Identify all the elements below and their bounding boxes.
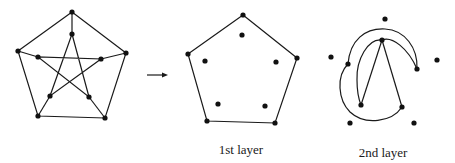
petersen-graph [18, 12, 126, 118]
spoke [101, 53, 126, 59]
layer2-left-curve [357, 40, 382, 105]
spoke [18, 51, 38, 57]
spoke [89, 97, 105, 118]
spoke [38, 96, 50, 116]
caption-1st-layer: 1st layer [219, 142, 263, 158]
layer2-edge [361, 40, 382, 105]
arrow-icon [147, 73, 168, 78]
layer2-inner-arc [382, 39, 417, 69]
layer1-vertices [185, 12, 299, 125]
layer2-vertices [328, 16, 439, 125]
inner-pentagram [38, 34, 101, 97]
diagram-canvas [0, 0, 455, 163]
layer1-outer-pentagon [188, 15, 297, 123]
caption-2nd-layer: 2nd layer [359, 145, 408, 161]
layer2-graph [340, 29, 417, 121]
layer1-graph [188, 15, 297, 123]
layer2-edge [382, 40, 402, 107]
